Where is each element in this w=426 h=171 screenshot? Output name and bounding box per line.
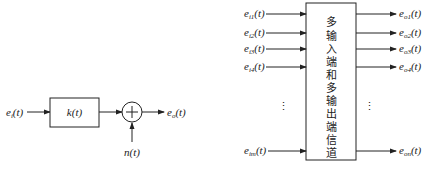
svg-text:输: 输 <box>326 29 337 43</box>
svg-text:eo4(t): eo4(t) <box>399 60 422 74</box>
svg-text:eim(t): eim(t) <box>244 144 267 158</box>
input-4: ei4(t) <box>244 60 306 74</box>
svg-text:端: 端 <box>326 121 337 134</box>
svg-text:eo1(t): eo1(t) <box>399 7 422 21</box>
svg-text:输: 输 <box>326 94 337 108</box>
single-channel-diagram: ei(t) k(t) eo(t) n(t) <box>6 98 186 159</box>
output-4: eo4(t) <box>356 60 422 74</box>
input-1: ei1(t) <box>244 7 306 21</box>
mimo-block-text: 多 输 入 端 和 多 输 出 端 信 道 <box>326 15 337 160</box>
input-3: ei3(t) <box>244 42 306 56</box>
svg-text:ei2(t): ei2(t) <box>244 26 265 40</box>
input-signal-label: ei(t) <box>6 106 24 120</box>
mimo-channel-diagram: 多 输 入 端 和 多 输 出 端 信 道 ei1(t) ei2(t) ei3(… <box>244 3 422 160</box>
output-signal-label: eo(t) <box>167 106 186 120</box>
svg-text:ei4(t): ei4(t) <box>244 60 265 74</box>
output-3: eo3(t) <box>356 42 422 56</box>
input-2: ei2(t) <box>244 26 306 40</box>
k-block-label: k(t) <box>67 106 83 119</box>
input-ellipsis: ⋮ <box>278 100 289 112</box>
channel-diagrams: ei(t) k(t) eo(t) n(t) 多 输 入 端 和 多 输 出 端 … <box>0 0 426 171</box>
svg-text:道: 道 <box>326 146 337 160</box>
input-m: eim(t) <box>244 144 306 158</box>
svg-text:多: 多 <box>326 81 337 95</box>
svg-text:eo2(t): eo2(t) <box>399 26 422 40</box>
svg-text:ei1(t): ei1(t) <box>244 7 265 21</box>
svg-text:ei3(t): ei3(t) <box>244 42 265 56</box>
output-1: eo1(t) <box>356 7 422 21</box>
output-2: eo2(t) <box>356 26 422 40</box>
svg-text:入: 入 <box>326 43 337 56</box>
svg-text:出: 出 <box>326 107 337 121</box>
output-n: eon(t) <box>356 144 422 158</box>
svg-text:eon(t): eon(t) <box>399 144 422 158</box>
svg-text:端: 端 <box>326 56 337 69</box>
svg-text:信: 信 <box>326 134 337 147</box>
noise-label: n(t) <box>124 146 140 159</box>
svg-text:eo3(t): eo3(t) <box>399 42 422 56</box>
svg-text:和: 和 <box>326 69 337 82</box>
output-ellipsis: ⋮ <box>364 100 375 112</box>
svg-text:多: 多 <box>326 15 337 29</box>
